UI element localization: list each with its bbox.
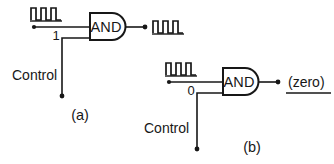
logic-diagram-figure: AND 1 Control (a) AND 0 Control (zero) (… bbox=[0, 0, 334, 164]
panel-a-control-value: 1 bbox=[52, 28, 59, 43]
panel-b-control-label: Control bbox=[144, 120, 189, 136]
panel-b-control-value: 0 bbox=[187, 83, 194, 98]
panel-a-control-label: Control bbox=[12, 67, 57, 83]
panel-a-caption: (a) bbox=[71, 107, 89, 123]
panel-b-gate-label: AND bbox=[223, 74, 254, 90]
panel-b-zero-output-label: (zero) bbox=[288, 74, 325, 90]
panel-a-gate-label: AND bbox=[90, 19, 121, 35]
panel-b-caption: (b) bbox=[243, 139, 261, 155]
diagram-text-layer: AND 1 Control (a) AND 0 Control (zero) (… bbox=[0, 0, 334, 164]
